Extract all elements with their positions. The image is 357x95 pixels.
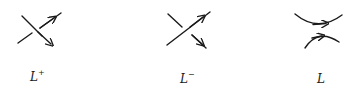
- over-strand-arrow-segment: [38, 32, 51, 44]
- upper-arc: [295, 14, 342, 24]
- under-strand-arrow-icon: [192, 35, 202, 44]
- under-strand-arrow-icon: [40, 18, 54, 28]
- label-superscript: −: [188, 70, 195, 79]
- negative-crossing: [167, 12, 210, 48]
- positive-crossing: [18, 13, 61, 44]
- upper-arc-arrow-icon: [313, 24, 326, 25]
- over-strand-arrow-icon: [190, 17, 203, 27]
- label-superscript: +: [38, 68, 45, 77]
- label-base: L: [317, 72, 325, 86]
- label-base: L: [180, 72, 188, 86]
- under-strand-upper: [168, 14, 182, 27]
- label-positive-crossing: L+: [30, 70, 45, 83]
- crossings-figure: [0, 0, 357, 95]
- lower-arc-arrow-icon: [312, 36, 322, 38]
- smoothing: [295, 14, 342, 48]
- label-smoothing: L: [317, 72, 325, 85]
- under-strand-lower: [18, 33, 32, 43]
- label-negative-crossing: L−: [180, 72, 195, 85]
- skein-diagram: L+ L− L: [0, 0, 357, 95]
- label-base: L: [30, 70, 38, 84]
- lower-arc: [305, 36, 339, 48]
